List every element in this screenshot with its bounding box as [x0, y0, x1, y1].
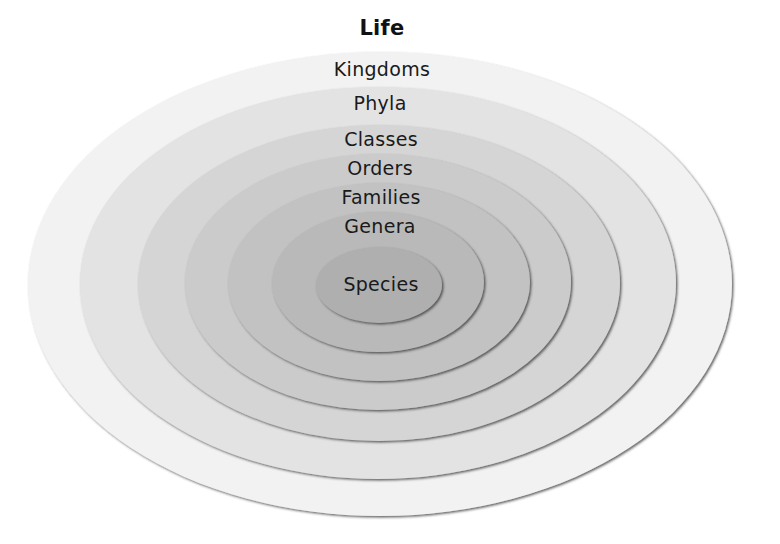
level-label-species: Species: [343, 273, 418, 295]
level-label-orders: Orders: [347, 157, 413, 179]
level-label-families: Families: [341, 186, 420, 208]
ellipse-rings: [0, 0, 780, 544]
level-label-kingdoms: Kingdoms: [334, 58, 430, 80]
taxonomy-nested-ellipses-diagram: Life Kingdoms Phyla Classes Orders Famil…: [0, 0, 780, 544]
level-label-phyla: Phyla: [353, 92, 406, 114]
level-label-classes: Classes: [344, 128, 418, 150]
diagram-title: Life: [359, 16, 404, 40]
level-label-genera: Genera: [344, 215, 415, 237]
